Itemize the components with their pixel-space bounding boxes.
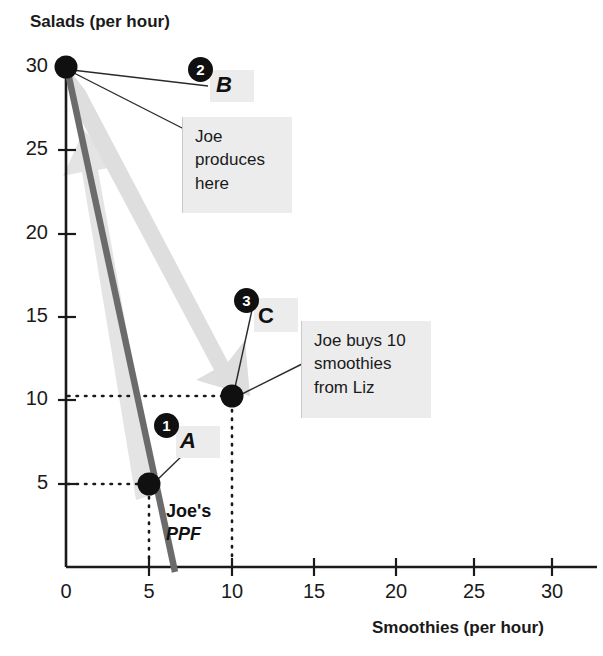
x-axis-title: Smoothies (per hour) xyxy=(372,618,544,638)
point-a xyxy=(138,473,161,496)
callout-joe-buys-smoothies: Joe buys 10 smoothies from Liz xyxy=(301,321,431,418)
ppf-label-line2: PPF xyxy=(166,523,211,546)
x-tick-10: 10 xyxy=(217,580,247,603)
ppf-curve-label: Joe's PPF xyxy=(166,500,211,545)
point-a-label: A xyxy=(180,428,196,454)
y-tick-15: 15 xyxy=(14,304,48,327)
ppf-chart-figure: Salads (per hour) Smoothies (per hour) 3… xyxy=(0,0,603,656)
callout-joe-produces-here: Joe produces here xyxy=(182,117,292,213)
point-c-label: C xyxy=(258,303,274,329)
ppf-label-line1: Joe's xyxy=(166,501,211,521)
callout-line-3: from Liz xyxy=(314,376,421,399)
y-tick-20: 20 xyxy=(14,221,48,244)
x-tick-0: 0 xyxy=(51,580,81,603)
x-tick-5: 5 xyxy=(134,580,164,603)
x-tick-20: 20 xyxy=(381,580,411,603)
ppf-line xyxy=(67,68,175,572)
point-b-label: B xyxy=(216,72,232,98)
callout-line-2: smoothies xyxy=(314,352,421,375)
x-tick-25: 25 xyxy=(459,580,489,603)
point-b xyxy=(55,56,78,79)
y-tick-30: 30 xyxy=(14,54,48,77)
step-badge-1: 1 xyxy=(154,413,179,438)
callout-line-2: produces xyxy=(195,148,282,171)
y-tick-25: 25 xyxy=(14,137,48,160)
point-c xyxy=(221,385,244,408)
specialization-arrow xyxy=(63,130,156,500)
step-badge-2: 2 xyxy=(188,57,213,82)
y-axis-title: Salads (per hour) xyxy=(30,12,170,32)
step-badge-3: 3 xyxy=(234,288,259,313)
callout-line-1: Joe xyxy=(195,125,282,148)
x-tick-15: 15 xyxy=(299,580,329,603)
x-tick-30: 30 xyxy=(537,580,567,603)
callout-line-3: here xyxy=(195,172,282,195)
y-tick-10: 10 xyxy=(14,387,48,410)
callout-line-1: Joe buys 10 xyxy=(314,329,421,352)
y-tick-5: 5 xyxy=(14,471,48,494)
